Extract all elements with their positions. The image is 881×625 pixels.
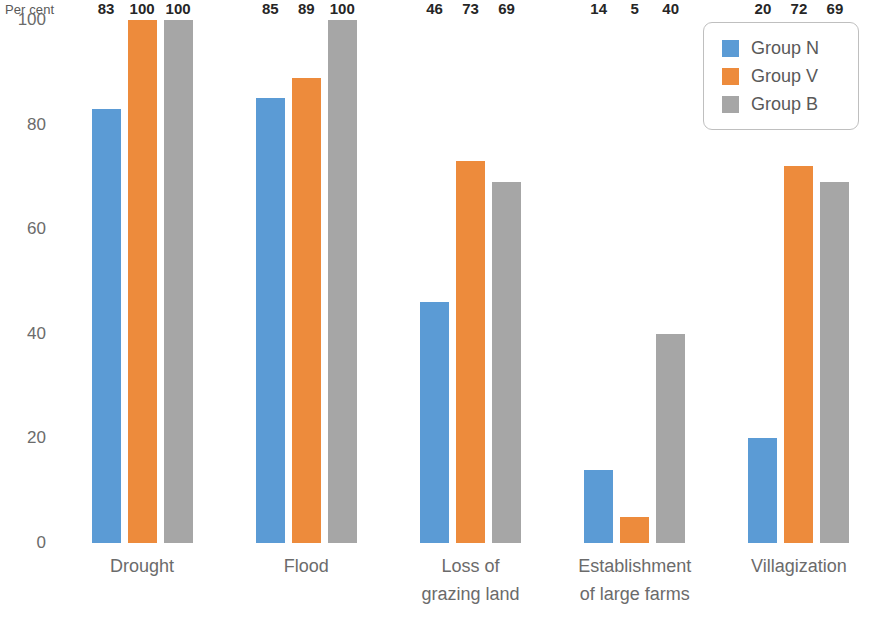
bar-value-label: 72 bbox=[791, 1, 808, 16]
bar-value-label: 73 bbox=[462, 1, 479, 16]
bar[interactable]: 5 bbox=[620, 517, 649, 543]
x-axis-category-label-line: Flood bbox=[224, 552, 388, 580]
legend-item[interactable]: Group N bbox=[722, 34, 858, 62]
x-axis-category-label-line: Drought bbox=[60, 552, 224, 580]
bar-column: 85 bbox=[256, 20, 285, 543]
legend-item[interactable]: Group V bbox=[722, 62, 858, 90]
bar[interactable]: 100 bbox=[128, 20, 157, 543]
x-axis-category-label-line: Loss of bbox=[388, 552, 552, 580]
bar-value-label: 100 bbox=[166, 1, 191, 16]
y-axis-tick-label: 60 bbox=[27, 219, 46, 239]
x-axis-category-label: Establishmentof large farms bbox=[553, 552, 717, 608]
bar-value-label: 83 bbox=[98, 1, 115, 16]
bar-value-label: 100 bbox=[330, 1, 355, 16]
bar-column: 69 bbox=[492, 20, 521, 543]
bar-group-bars: 467369 bbox=[388, 20, 552, 543]
bar-column: 83 bbox=[92, 20, 121, 543]
y-axis-tick-label: 0 bbox=[37, 533, 46, 553]
bar[interactable]: 85 bbox=[256, 98, 285, 543]
x-axis-category-label-line: grazing land bbox=[388, 580, 552, 608]
bar-group: 8589100 bbox=[224, 20, 388, 543]
bar-value-label: 69 bbox=[498, 1, 515, 16]
y-axis-tick-label: 40 bbox=[27, 324, 46, 344]
y-axis-tick-label: 20 bbox=[27, 428, 46, 448]
y-axis: 020406080100 bbox=[0, 0, 60, 625]
bar[interactable]: 83 bbox=[92, 109, 121, 543]
y-axis-tick-label: 80 bbox=[27, 115, 46, 135]
bar-group: 467369 bbox=[388, 20, 552, 543]
legend-item-label: Group V bbox=[751, 66, 818, 87]
x-axis-category-label-line: of large farms bbox=[553, 580, 717, 608]
x-axis-category-label-line: Villagization bbox=[717, 552, 881, 580]
legend-item-label: Group N bbox=[751, 38, 819, 59]
bar-group-bars: 14540 bbox=[553, 20, 717, 543]
bar-value-label: 5 bbox=[631, 1, 639, 16]
bar-group-bars: 8589100 bbox=[224, 20, 388, 543]
bar[interactable]: 46 bbox=[420, 302, 449, 543]
legend-color-swatch bbox=[722, 40, 739, 57]
x-axis-category-label-line: Establishment bbox=[553, 552, 717, 580]
chart-legend: Group NGroup VGroup B bbox=[703, 22, 859, 130]
bar[interactable]: 69 bbox=[820, 182, 849, 543]
bar-group: 14540 bbox=[553, 20, 717, 543]
x-axis-category-label: Villagization bbox=[717, 552, 881, 580]
bar-value-label: 20 bbox=[755, 1, 772, 16]
bar-value-label: 69 bbox=[827, 1, 844, 16]
bar[interactable]: 20 bbox=[748, 438, 777, 543]
legend-color-swatch bbox=[722, 68, 739, 85]
bar-value-label: 85 bbox=[262, 1, 279, 16]
bar[interactable]: 73 bbox=[456, 161, 485, 543]
bar-column: 5 bbox=[620, 20, 649, 543]
bar-column: 14 bbox=[584, 20, 613, 543]
bar-value-label: 100 bbox=[130, 1, 155, 16]
bar[interactable]: 14 bbox=[584, 470, 613, 543]
bar[interactable]: 40 bbox=[656, 334, 685, 543]
y-axis-tick-label: 100 bbox=[18, 10, 46, 30]
x-axis-category-labels: DroughtFloodLoss ofgrazing landEstablish… bbox=[60, 552, 881, 622]
legend-item[interactable]: Group B bbox=[722, 90, 858, 118]
bar-column: 100 bbox=[128, 20, 157, 543]
bar-value-label: 14 bbox=[590, 1, 607, 16]
bar[interactable]: 100 bbox=[164, 20, 193, 543]
bar-value-label: 46 bbox=[426, 1, 443, 16]
bar-column: 46 bbox=[420, 20, 449, 543]
x-axis-category-label: Loss ofgrazing land bbox=[388, 552, 552, 608]
bar-group-bars: 83100100 bbox=[60, 20, 224, 543]
bar-chart: Per cent 020406080100 831001008589100467… bbox=[0, 0, 881, 625]
legend-item-label: Group B bbox=[751, 94, 818, 115]
bar-column: 73 bbox=[456, 20, 485, 543]
bar[interactable]: 72 bbox=[784, 166, 813, 543]
bar[interactable]: 89 bbox=[292, 78, 321, 543]
bar-value-label: 40 bbox=[662, 1, 679, 16]
bar-column: 100 bbox=[164, 20, 193, 543]
bar[interactable]: 100 bbox=[328, 20, 357, 543]
bar-column: 100 bbox=[328, 20, 357, 543]
bar-group: 83100100 bbox=[60, 20, 224, 543]
bar-column: 40 bbox=[656, 20, 685, 543]
x-axis-category-label: Drought bbox=[60, 552, 224, 580]
x-axis-category-label: Flood bbox=[224, 552, 388, 580]
bar-value-label: 89 bbox=[298, 1, 315, 16]
bar[interactable]: 69 bbox=[492, 182, 521, 543]
bar-column: 89 bbox=[292, 20, 321, 543]
legend-color-swatch bbox=[722, 96, 739, 113]
